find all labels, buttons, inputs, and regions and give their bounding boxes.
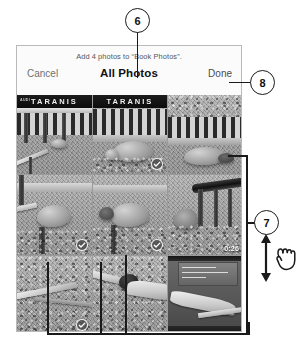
grid-cell-photo[interactable] (168, 95, 242, 174)
fence-post (19, 175, 24, 205)
callout-8-marker: 8 (250, 70, 275, 95)
rail-top (17, 183, 92, 192)
fence-post (228, 189, 232, 227)
text-line (182, 272, 228, 274)
grid-cell-photo[interactable]: AUDI TARANIS (17, 95, 92, 174)
fence-post (198, 189, 203, 227)
stand-post (29, 157, 32, 174)
fence-post (214, 189, 218, 227)
animal-head (99, 207, 114, 220)
top-band (168, 256, 242, 261)
text-line (182, 267, 216, 269)
grid-cell-photo[interactable] (93, 175, 168, 254)
fence-post (24, 113, 28, 143)
callout-7-bracket-top (228, 155, 248, 157)
photo-picker-panel: Add 4 photos to “Book Photos”. All Photo… (16, 45, 242, 332)
callout-6-leader-line (137, 31, 139, 78)
grid-cell-photo[interactable] (168, 256, 242, 332)
banner-label: TARANIS (107, 97, 154, 106)
picker-subtitle: Add 4 photos to “Book Photos”. (17, 52, 241, 61)
grid-cell-photo[interactable] (17, 175, 92, 254)
scroll-hand-icon (272, 240, 298, 274)
done-button[interactable]: Done (208, 68, 232, 79)
rail-bottom (168, 138, 242, 145)
bottom-bracket-right-tick (248, 322, 250, 335)
banner-text-strip: TARANIS (93, 95, 168, 108)
annotated-screenshot: Add 4 photos to “Book Photos”. All Photo… (0, 0, 301, 359)
animal-shape (51, 139, 67, 148)
cancel-button[interactable]: Cancel (27, 68, 58, 79)
rail-top (93, 185, 168, 193)
bottom-bracket-horizontal (47, 333, 250, 335)
selected-check-icon[interactable] (76, 319, 88, 331)
banner-small-text: AUDI (20, 98, 30, 102)
banner-text-strip: AUDI TARANIS (17, 95, 92, 108)
grid-cell-photo[interactable] (17, 256, 92, 332)
callout-6-marker: 6 (125, 8, 150, 33)
selected-check-icon[interactable] (151, 239, 163, 251)
selection-leader-line (47, 262, 49, 334)
info-panel-shape (178, 262, 238, 286)
fence-post (43, 113, 47, 143)
callout-7-bracket-vertical (246, 155, 248, 335)
gravel-texture (168, 95, 242, 117)
grid-cell-photo[interactable]: TARANIS (93, 95, 168, 174)
grid-cell-video[interactable]: 0:26 (168, 175, 242, 254)
picker-navigation-bar: Add 4 photos to “Book Photos”. All Photo… (17, 46, 241, 95)
banner-label: TARANIS (31, 97, 78, 106)
fence-rail (17, 113, 92, 135)
selection-leader-line (125, 255, 127, 334)
fence-rail (168, 117, 242, 138)
grid-cell-photo[interactable] (93, 256, 168, 332)
selection-leader-line (100, 262, 102, 334)
fence-rail (93, 109, 168, 135)
video-duration-label: 0:26 (224, 245, 239, 252)
photo-grid[interactable]: AUDI TARANIS TARANIS (17, 95, 242, 332)
selected-check-icon[interactable] (76, 239, 88, 251)
text-line (182, 277, 206, 279)
bottom-band (168, 326, 242, 332)
callout-7-marker: 7 (254, 210, 279, 235)
